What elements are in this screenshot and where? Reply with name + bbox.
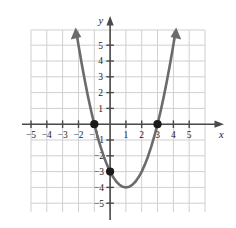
marked-point-x-intercept-3	[153, 120, 161, 128]
marked-point-x-intercept-neg1	[90, 120, 98, 128]
x-axis-arrowhead	[215, 121, 225, 128]
coordinate-plane: −5 −4 −3 −2 −1 1 2 3 4 5 5 4 3 2 1 −1 −2…	[0, 0, 236, 228]
x-tick-label-2: 2	[139, 130, 144, 140]
x-tick-label--2: −2	[73, 130, 83, 140]
y-axis-label: y	[98, 15, 104, 26]
x-tick-label--4: −4	[42, 130, 52, 140]
x-tick-label--3: −3	[58, 130, 68, 140]
x-tick-label-5: 5	[187, 130, 192, 140]
y-tick-label-5: 5	[98, 41, 103, 51]
y-axis-arrowhead	[107, 16, 114, 26]
x-tick-label-4: 4	[171, 130, 176, 140]
graph-figure: −5 −4 −3 −2 −1 1 2 3 4 5 5 4 3 2 1 −1 −2…	[0, 0, 236, 228]
x-axis-label: x	[218, 129, 224, 140]
x-tick-label-1: 1	[124, 130, 129, 140]
y-tick-label--5: −5	[94, 199, 104, 209]
y-tick-label-4: 4	[98, 56, 103, 66]
x-tick-label--5: −5	[26, 130, 36, 140]
y-tick-label-1: 1	[98, 104, 103, 114]
marked-point-y-intercept-neg3	[106, 168, 114, 176]
y-tick-label-2: 2	[98, 88, 103, 98]
y-tick-label--4: −4	[94, 183, 104, 193]
y-tick-label--3: −3	[94, 167, 104, 177]
y-tick-label-3: 3	[98, 72, 103, 82]
